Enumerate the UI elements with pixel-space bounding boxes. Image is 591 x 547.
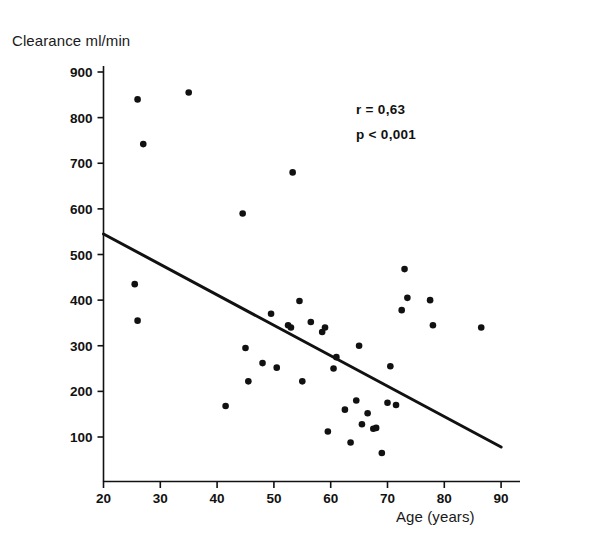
data-point [259, 360, 266, 367]
data-point [398, 307, 405, 314]
plot-canvas: 100200300400500600700800900 203040506070… [0, 0, 591, 547]
x-tick-label: 80 [437, 491, 452, 506]
data-point [288, 324, 295, 331]
data-point [325, 428, 332, 435]
y-tick-label: 100 [70, 430, 93, 445]
regression-line [104, 234, 502, 447]
data-point [239, 210, 246, 217]
y-tick-label: 500 [70, 248, 93, 263]
data-point [134, 96, 141, 103]
data-point [384, 399, 391, 406]
data-point [245, 378, 252, 385]
data-point [356, 342, 363, 349]
x-tick-label: 90 [494, 491, 509, 506]
x-tick-label: 40 [210, 491, 225, 506]
data-point [359, 421, 366, 428]
data-point [379, 450, 386, 457]
y-tick-label: 400 [70, 293, 93, 308]
y-axis: 100200300400500600700800900 [70, 65, 104, 482]
x-tick-label: 60 [323, 491, 338, 506]
data-point [268, 311, 275, 318]
x-axis: 2030405060708090 [96, 482, 520, 507]
data-point [342, 406, 349, 413]
regression-line-segment [104, 234, 502, 447]
data-point [131, 281, 138, 288]
data-point [353, 397, 360, 404]
y-tick-label: 300 [70, 339, 93, 354]
statistics-annotation: r = 0,63 p < 0,001 [356, 97, 416, 147]
x-tick-label: 70 [380, 491, 395, 506]
y-tick-label: 900 [70, 65, 93, 80]
y-axis-ticks: 100200300400500600700800900 [70, 65, 104, 445]
data-point [140, 141, 147, 148]
data-point [364, 410, 371, 417]
x-tick-label: 30 [153, 491, 168, 506]
data-point [296, 298, 303, 305]
data-point [185, 89, 192, 96]
x-axis-ticks: 2030405060708090 [96, 482, 509, 507]
x-tick-label: 50 [266, 491, 281, 506]
data-point [333, 354, 340, 361]
data-point [330, 365, 337, 372]
x-tick-label: 20 [96, 491, 111, 506]
data-point [347, 439, 354, 446]
x-axis-title: Age (years) [396, 508, 475, 525]
data-point [299, 378, 306, 385]
data-point [134, 317, 141, 324]
y-tick-label: 700 [70, 156, 93, 171]
data-point [322, 324, 329, 331]
data-point [401, 266, 408, 273]
y-tick-label: 600 [70, 202, 93, 217]
data-point [289, 169, 296, 176]
y-tick-label: 200 [70, 384, 93, 399]
data-point [242, 345, 249, 352]
data-point [308, 319, 315, 326]
data-points [131, 89, 484, 456]
correlation-annotation: r = 0,63 [356, 97, 416, 122]
data-point [404, 295, 411, 302]
data-point [273, 364, 280, 371]
data-point [430, 322, 437, 329]
data-point [393, 402, 400, 409]
pvalue-annotation: p < 0,001 [356, 122, 416, 147]
data-point [427, 297, 434, 304]
data-point [387, 363, 394, 370]
data-point [478, 324, 485, 331]
data-point [222, 403, 229, 410]
scatter-plot-figure: Clearance ml/min r = 0,63 p < 0,001 1002… [0, 0, 591, 547]
y-axis-title: Clearance ml/min [12, 32, 130, 49]
data-point [373, 425, 380, 432]
y-tick-label: 800 [70, 111, 93, 126]
